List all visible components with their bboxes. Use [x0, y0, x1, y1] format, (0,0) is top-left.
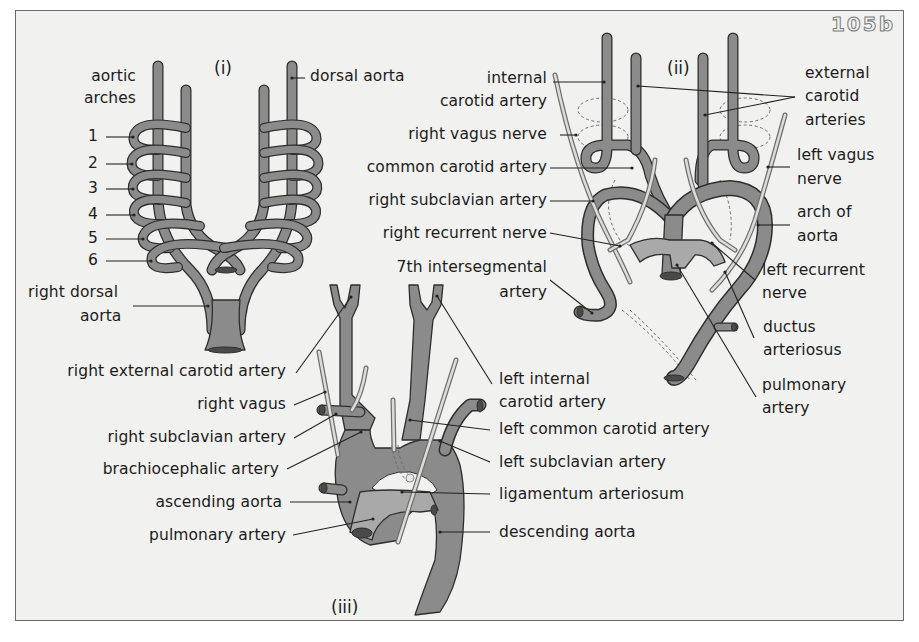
label-pulmonary-ii-line2: artery [762, 399, 810, 418]
label-right-dorsal-aorta-line1: right dorsal [28, 283, 118, 302]
label-right-vagus-nerve: right vagus nerve [408, 125, 547, 144]
label-arch-1: 1 [88, 127, 98, 146]
label-ligamentum-arteriosum: ligamentum arteriosum [499, 485, 684, 504]
label-right-subclavian-ii: right subclavian artery [369, 191, 547, 210]
label-left-subclavian: left subclavian artery [499, 453, 666, 472]
label-dorsal-aorta: dorsal aorta [310, 67, 405, 86]
label-pulmonary-ii-line1: pulmonary [762, 376, 846, 395]
label-descending-aorta: descending aorta [499, 523, 636, 542]
label-external-carotid-line2: carotid [805, 87, 859, 106]
label-ductus-line1: ductus [763, 318, 816, 337]
label-external-carotid-line1: external [805, 64, 870, 83]
label-common-carotid: common carotid artery [367, 158, 547, 177]
label-arch-3: 3 [88, 179, 98, 198]
figure-id-label: 105b [831, 12, 895, 36]
label-left-vagus-line2: nerve [797, 170, 842, 189]
label-right-recurrent-nerve: right recurrent nerve [383, 224, 547, 243]
aortic-arches-left [224, 124, 318, 268]
label-right-subclavian-iii: right subclavian artery [108, 428, 286, 447]
panel-iii-title: (iii) [331, 597, 358, 617]
label-internal-carotid-line1: internal [487, 69, 547, 88]
label-arch-5: 5 [88, 229, 98, 248]
panel-ii-vessels [550, 38, 795, 397]
label-ascending-aorta: ascending aorta [155, 493, 282, 512]
panel-ii-title: (ii) [667, 58, 690, 78]
label-right-vagus: right vagus [197, 395, 286, 414]
label-arch-6: 6 [88, 251, 98, 270]
label-arch-of-aorta-line1: arch of [797, 203, 851, 222]
panel-iii-vessels [287, 285, 492, 615]
label-left-recurrent-line2: nerve [762, 284, 807, 303]
label-arch-2: 2 [88, 154, 98, 173]
label-left-recurrent-line1: left recurrent [762, 261, 865, 280]
label-left-internal-carotid-line2: carotid artery [499, 393, 606, 412]
label-arch-4: 4 [88, 205, 98, 224]
label-left-common-carotid: left common carotid artery [499, 420, 710, 439]
panel-i-vessels [106, 66, 318, 353]
label-7th-intersegmental-line2: artery [499, 283, 547, 302]
label-ductus-line2: arteriosus [763, 341, 842, 360]
label-7th-intersegmental-line1: 7th intersegmental [397, 258, 547, 277]
label-external-carotid-line3: arteries [805, 111, 866, 130]
label-brachiocephalic: brachiocephalic artery [103, 460, 279, 479]
aortic-arches-right [132, 124, 226, 268]
label-right-external-carotid: right external carotid artery [67, 362, 286, 381]
panel-i-title: (i) [214, 58, 232, 78]
label-left-vagus-line1: left vagus [797, 146, 874, 165]
label-internal-carotid-line2: carotid artery [440, 92, 547, 111]
label-left-internal-carotid-line1: left internal [499, 370, 590, 389]
label-aortic-arches-line1: aortic [91, 67, 136, 86]
label-pulmonary-artery-iii: pulmonary artery [149, 526, 286, 545]
label-right-dorsal-aorta-line2: aorta [80, 307, 121, 326]
label-arch-of-aorta-line2: aorta [797, 227, 838, 246]
label-aortic-arches-line2: arches [84, 89, 136, 108]
